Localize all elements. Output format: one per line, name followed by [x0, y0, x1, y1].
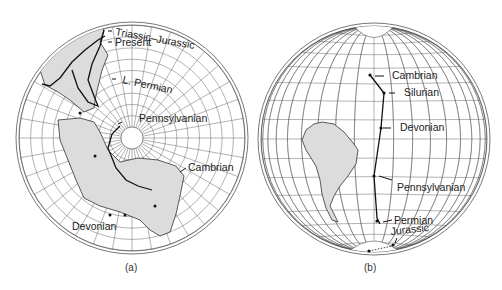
caption-b: (b) — [364, 262, 376, 273]
pole-dot-jurassic — [391, 243, 394, 246]
pole-dot-silurian — [382, 91, 385, 94]
label-pennsylvanian: Pennsylvanian — [139, 112, 207, 124]
globe-a-pole-hole — [121, 127, 143, 149]
globe-a: Triassic–Jurassic Present L. Permian Pen… — [16, 22, 248, 273]
pole-dot — [79, 112, 82, 115]
pole-dot-pennsylvanian — [372, 174, 375, 177]
label-devonian: Devonian — [72, 220, 117, 232]
globe-b-wander-path — [370, 75, 384, 224]
label-pennsylvanian-b: Pennsylvanian — [397, 181, 465, 193]
meridian-line — [143, 140, 243, 158]
pole-dot — [94, 155, 97, 158]
pole-dot — [154, 205, 157, 208]
label-present: Present — [115, 36, 151, 48]
continent-south-america — [302, 122, 358, 222]
globe-b: Cambrian Silurian Devonian Pennsylvanian… — [258, 23, 490, 273]
pole-dot-devonian — [379, 126, 382, 129]
pole-dot-cambrian — [368, 73, 371, 76]
label-silurian: Silurian — [404, 86, 439, 98]
pole-dot — [124, 214, 127, 217]
continent-laurasia — [40, 22, 108, 112]
label-cambrian: Cambrian — [188, 161, 234, 173]
label-cambrian-b: Cambrian — [392, 69, 438, 81]
apparent-polar-wander-figure: Triassic–Jurassic Present L. Permian Pen… — [0, 0, 502, 290]
label-devonian-b: Devonian — [400, 121, 445, 133]
pole-dot — [109, 214, 112, 217]
globe-b-graticule — [261, 26, 487, 252]
pole-dot-permian — [375, 219, 378, 222]
arrow-cambrian — [180, 168, 186, 172]
label-l-permian: L. Permian — [122, 73, 174, 95]
caption-a: (a) — [125, 262, 137, 273]
